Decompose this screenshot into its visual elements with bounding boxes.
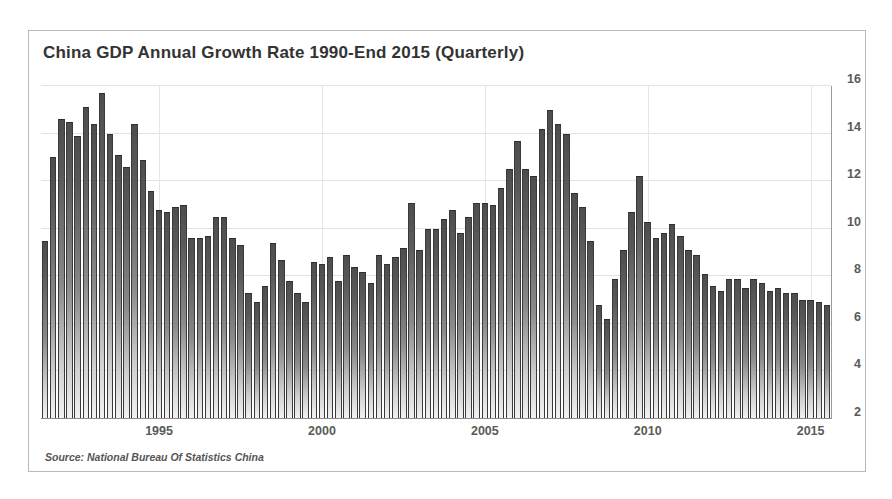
bar — [587, 241, 594, 419]
bar — [539, 129, 546, 419]
bar — [400, 248, 407, 419]
bar — [140, 160, 147, 419]
y-tick-label-6: 6 — [837, 310, 861, 324]
bar — [742, 288, 749, 419]
bar — [99, 93, 106, 419]
y-tick-label-12: 12 — [837, 167, 861, 181]
bar — [123, 167, 130, 419]
y-tick-label-4: 4 — [837, 357, 861, 371]
bar — [180, 205, 187, 419]
bar — [628, 212, 635, 419]
bar — [677, 236, 684, 419]
y-tick-label-14: 14 — [837, 120, 861, 134]
bar — [669, 224, 676, 419]
bar — [514, 141, 521, 419]
x-tick-label-2010: 2010 — [634, 424, 662, 438]
bar — [83, 107, 90, 419]
bar — [457, 233, 464, 419]
bar — [311, 262, 318, 419]
bar — [286, 281, 293, 419]
bar — [74, 136, 81, 419]
bar — [433, 229, 440, 419]
chart-card: China GDP Annual Growth Rate 1990-End 20… — [28, 30, 866, 472]
bar — [107, 134, 114, 419]
bar — [416, 250, 423, 419]
bar — [392, 257, 399, 419]
y-tick-label-2: 2 — [837, 405, 861, 419]
bar — [783, 293, 790, 419]
bar — [620, 250, 627, 419]
bar — [441, 219, 448, 419]
bar — [66, 122, 73, 419]
bar — [482, 203, 489, 419]
bar — [262, 286, 269, 419]
bar — [596, 305, 603, 419]
y-tick-label-8: 8 — [837, 262, 861, 276]
bar — [213, 217, 220, 419]
bar — [824, 305, 831, 419]
bar — [555, 124, 562, 419]
bar — [710, 286, 717, 419]
bar — [172, 207, 179, 419]
bar — [685, 250, 692, 419]
bar — [156, 210, 163, 419]
x-axis-tick-labels: 19952000200520102015 — [41, 424, 831, 444]
x-tick-label-1995: 1995 — [145, 424, 173, 438]
bar — [359, 272, 366, 419]
bar — [490, 205, 497, 419]
bar — [506, 169, 513, 419]
bar — [775, 288, 782, 419]
y-tick-label-16: 16 — [837, 72, 861, 86]
bar — [115, 155, 122, 419]
page-title: China GDP Annual Growth Rate 1990-End 20… — [43, 43, 524, 63]
bar — [384, 264, 391, 419]
bar — [579, 207, 586, 419]
bar — [294, 293, 301, 419]
bar — [547, 110, 554, 419]
bar — [245, 293, 252, 419]
bar — [726, 279, 733, 419]
bar-series — [41, 86, 831, 419]
bar — [734, 279, 741, 419]
bar — [522, 169, 529, 419]
bar — [653, 238, 660, 419]
bar — [368, 283, 375, 419]
bar — [221, 217, 228, 419]
bar — [661, 233, 668, 419]
bar — [604, 319, 611, 419]
bar — [148, 191, 155, 419]
x-tick-label-2015: 2015 — [797, 424, 825, 438]
bar — [465, 217, 472, 419]
bar — [131, 124, 138, 419]
bar — [197, 238, 204, 419]
bar — [612, 279, 619, 419]
bar — [188, 238, 195, 419]
x-tick-label-2005: 2005 — [471, 424, 499, 438]
bar — [408, 203, 415, 419]
bar — [302, 302, 309, 419]
bar — [42, 241, 49, 419]
x-tick-label-2000: 2000 — [308, 424, 336, 438]
bar — [636, 176, 643, 419]
bar — [58, 119, 65, 419]
bar — [563, 134, 570, 419]
bar — [750, 279, 757, 419]
bar — [319, 264, 326, 419]
bar — [799, 300, 806, 419]
bar — [791, 293, 798, 419]
bar — [425, 229, 432, 419]
bar — [164, 212, 171, 419]
bar — [759, 283, 766, 419]
bar — [343, 255, 350, 419]
bar — [702, 274, 709, 419]
bar — [376, 255, 383, 419]
x-axis-line — [41, 418, 831, 419]
bar — [498, 188, 505, 419]
bar — [644, 222, 651, 419]
bar — [229, 238, 236, 419]
bar — [50, 157, 57, 419]
bar — [237, 245, 244, 419]
bar — [351, 267, 358, 419]
y-tick-label-10: 10 — [837, 215, 861, 229]
bar — [816, 302, 823, 419]
